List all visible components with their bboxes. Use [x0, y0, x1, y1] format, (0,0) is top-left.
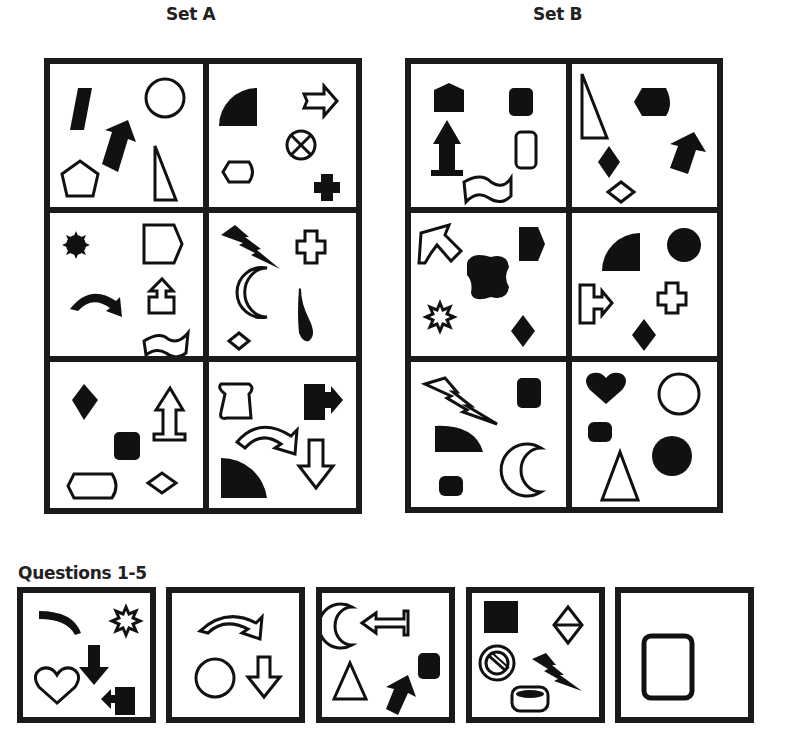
rounded-rect-outline-icon [516, 132, 536, 168]
set-a-title: Set A [166, 4, 215, 24]
wave-banner-icon [144, 333, 188, 356]
question-5-box[interactable] [615, 587, 754, 723]
square-arrow-right-icon [304, 384, 343, 420]
set-a-cell-4 [209, 213, 356, 356]
rounded-rect-outline-icon [644, 636, 692, 698]
blob-icon [467, 255, 509, 299]
rounded-square-icon [509, 88, 533, 116]
circle-outline-icon [196, 659, 234, 697]
right-triangle-icon [155, 146, 176, 200]
pentagon-arrow-icon [519, 227, 545, 261]
question-1-box[interactable] [17, 587, 156, 723]
quarter-circle-icon [602, 233, 640, 271]
diamond-icon [598, 146, 620, 178]
split-diamond-icon [554, 607, 582, 643]
scroll-icon [220, 384, 252, 418]
crescent-icon [237, 268, 267, 318]
box-arrow-right-outline-icon [580, 285, 612, 323]
circle-cross-icon [287, 131, 315, 159]
crescent-outline-icon [322, 604, 352, 648]
square-icon [484, 601, 518, 633]
crescent-outline-icon [501, 444, 541, 496]
triangle-outline-icon [334, 663, 366, 699]
arrow-down-outline-icon [299, 440, 333, 488]
diamond-outline-icon [608, 182, 634, 202]
heart-icon [586, 373, 626, 404]
cross-icon [314, 174, 340, 201]
set-a-cell-2 [209, 64, 356, 207]
arrow-left-bar-icon [362, 611, 408, 635]
starburst-icon [62, 231, 90, 259]
question-4-box[interactable] [466, 587, 605, 723]
cylinder-icon [588, 422, 612, 442]
arrow-down-outline-icon [248, 657, 280, 697]
lightning-icon [221, 225, 280, 269]
set-a-cell-5 [50, 362, 203, 508]
arrow-up-right-icon [670, 132, 706, 174]
arrow-up-left-outline-icon [419, 225, 461, 263]
triangle-outline-icon [602, 452, 638, 500]
wave-banner-icon [464, 177, 511, 202]
heart-outline-icon [35, 668, 78, 703]
teardrop-icon [298, 288, 313, 341]
set-b-cell-5 [411, 362, 566, 507]
arrow-up-base-icon [431, 120, 463, 176]
arrow-up-box-icon [149, 279, 174, 313]
hexagon-icon [223, 162, 253, 182]
arrow-right-icon [304, 86, 337, 116]
rounded-square-icon [114, 432, 140, 460]
questions-title: Questions 1-5 [18, 563, 147, 583]
rounded-square-icon [517, 378, 541, 408]
curved-arrow-outline-icon [237, 427, 297, 454]
diamond-outline-icon [148, 473, 176, 493]
arrow-down-icon [79, 645, 109, 685]
set-b-cell-3 [411, 213, 566, 356]
question-2-box[interactable] [166, 587, 305, 723]
rounded-square-icon [418, 653, 440, 679]
circle-outline-icon [659, 374, 699, 414]
hexagon-icon [634, 88, 670, 116]
diamond-outline-icon [229, 333, 249, 349]
diamond-icon [72, 384, 98, 420]
starburst-outline-icon [426, 303, 454, 331]
cross-outline-icon [297, 231, 325, 263]
set-b-title: Set B [533, 4, 582, 24]
arrow-up-right-icon [102, 120, 136, 172]
quarter-circle-icon [435, 426, 483, 452]
arrow-up-base-icon [154, 388, 185, 440]
house-pentagon-icon [434, 83, 464, 112]
question-3-box[interactable] [316, 587, 455, 723]
arrow-up-right-icon [386, 675, 416, 715]
set-b-cell-2 [572, 64, 717, 207]
cylinder-outline-icon [512, 687, 548, 711]
set-a-cell-3 [50, 213, 203, 356]
circle-icon [652, 436, 692, 476]
lightning-icon [532, 653, 582, 691]
set-b-cell-6 [572, 362, 717, 507]
pentagon-arrow-icon [144, 225, 182, 263]
cross-outline-icon [658, 283, 686, 313]
circle-icon [146, 79, 184, 117]
lightning-outline-icon [425, 378, 497, 424]
set-a-cell-6 [209, 362, 356, 508]
set-a-grid [44, 58, 362, 514]
quarter-circle-icon [219, 88, 257, 126]
parallelogram-icon [70, 88, 92, 130]
arc-icon [39, 611, 81, 635]
quarter-circle-icon [221, 458, 267, 498]
curved-arrow-outline-icon [200, 617, 262, 639]
curved-arrow-icon [70, 294, 122, 317]
cylinder-icon [439, 476, 463, 496]
set-b-cell-4 [572, 213, 717, 356]
right-triangle-outline-icon [582, 74, 607, 138]
set-a-cell-1 [50, 64, 203, 207]
set-b-cell-1 [411, 64, 566, 207]
square-arrow-left-icon [101, 687, 135, 715]
set-b-grid [405, 58, 723, 513]
starburst-outline-icon [112, 607, 140, 635]
circle-icon [667, 228, 701, 262]
no-symbol-icon [480, 646, 514, 680]
diamond-icon [632, 319, 656, 351]
pentagon-icon [62, 161, 98, 196]
diamond-icon [511, 315, 535, 347]
